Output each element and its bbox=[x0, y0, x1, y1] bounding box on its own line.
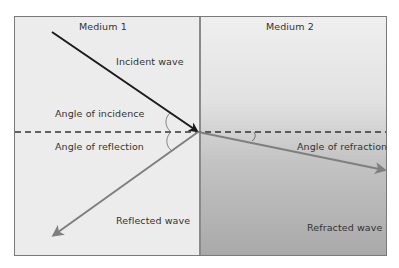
incident-wave-label: Incident wave bbox=[116, 56, 184, 67]
medium-1-label: Medium 1 bbox=[79, 21, 127, 32]
angle-of-refraction-label: Angle of refraction bbox=[297, 141, 387, 152]
refracted-wave-label: Refracted wave bbox=[307, 222, 382, 233]
angle-of-refraction-arc bbox=[252, 132, 255, 141]
angle-of-incidence-arc bbox=[166, 113, 170, 131]
reflected-wave-label: Reflected wave bbox=[116, 215, 190, 226]
angle-of-incidence-label: Angle of incidence bbox=[55, 108, 145, 119]
medium-2-label: Medium 2 bbox=[266, 21, 314, 32]
angle-of-reflection-arc bbox=[167, 133, 172, 151]
angle-of-reflection-label: Angle of reflection bbox=[55, 141, 144, 152]
